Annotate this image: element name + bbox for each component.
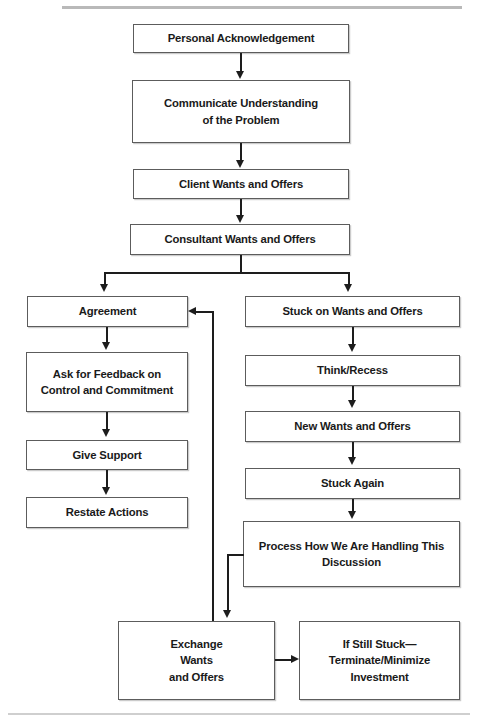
node-process-how-we-are-handling-this-discussion[interactable]: Process How We Are Handling This Discuss… (243, 521, 460, 587)
edge-line-process-exit-left (227, 554, 244, 556)
edge-line-consultant-fork-stem (240, 255, 242, 273)
node-stuck-again[interactable]: Stuck Again (245, 468, 460, 499)
node-label: Agreement (34, 303, 181, 319)
edge-line-ack-to-communicate (240, 53, 242, 73)
node-label: Communicate Understanding of the Problem (139, 95, 343, 128)
node-client-wants-and-offers[interactable]: Client Wants and Offers (133, 169, 349, 199)
edge-line-loop-back-horizontal (196, 311, 213, 313)
edge-line-process-down-to-exchange (227, 554, 229, 611)
node-label: If Still Stuck— Terminate/Minimize Inves… (306, 636, 453, 685)
node-restate-actions[interactable]: Restate Actions (26, 497, 188, 528)
edge-line-loop-back-vertical (212, 311, 214, 621)
edge-arrow-fork-to-agreement (100, 284, 108, 292)
edge-line-support-to-restate (106, 470, 108, 488)
edge-line-stuck-to-think (352, 327, 354, 345)
node-consultant-wants-and-offers[interactable]: Consultant Wants and Offers (130, 224, 350, 255)
node-personal-acknowledgement[interactable]: Personal Acknowledgement (133, 24, 349, 53)
edge-arrow-fork-to-stuck (344, 284, 352, 292)
top-divider-rule (62, 6, 462, 9)
node-label: Client Wants and Offers (140, 176, 342, 192)
node-exchange-wants-and-offers[interactable]: Exchange Wants and Offers (118, 621, 275, 700)
node-label: Process How We Are Handling This Discuss… (250, 538, 453, 571)
edge-line-feedback-to-support (106, 412, 108, 430)
node-new-wants-and-offers[interactable]: New Wants and Offers (245, 411, 460, 442)
node-label: Consultant Wants and Offers (137, 231, 343, 247)
node-label: New Wants and Offers (252, 418, 453, 434)
node-ask-for-feedback[interactable]: Ask for Feedback on Control and Commitme… (26, 352, 188, 412)
node-label: Give Support (33, 447, 181, 463)
node-communicate-understanding[interactable]: Communicate Understanding of the Problem (132, 80, 350, 143)
edge-line-think-to-new-wants (352, 386, 354, 401)
node-stuck-on-wants-and-offers[interactable]: Stuck on Wants and Offers (245, 296, 460, 327)
node-if-still-stuck[interactable]: If Still Stuck— Terminate/Minimize Inves… (299, 621, 460, 700)
node-agreement[interactable]: Agreement (27, 296, 188, 327)
edge-arrow-new-wants-to-stuck-again (348, 457, 356, 465)
node-label: Think/Recess (252, 362, 453, 378)
node-label: Restate Actions (33, 504, 181, 520)
node-label: Stuck Again (252, 475, 453, 491)
edge-arrow-stuck-again-to-process (348, 511, 356, 519)
bottom-divider-rule (8, 713, 470, 715)
edge-arrow-process-to-exchange (223, 610, 231, 618)
edge-arrow-ack-to-communicate (236, 71, 244, 79)
edge-arrow-communicate-to-client (236, 160, 244, 168)
edge-arrow-client-to-consultant (236, 215, 244, 223)
node-think-recess[interactable]: Think/Recess (245, 355, 460, 386)
edge-arrow-agreement-to-feedback (102, 342, 110, 350)
node-label: Personal Acknowledgement (140, 30, 342, 46)
edge-line-new-wants-to-stuck-again (352, 442, 354, 458)
edge-line-communicate-to-client (240, 143, 242, 161)
node-label: Ask for Feedback on Control and Commitme… (33, 366, 181, 399)
edge-line-client-to-consultant (240, 199, 242, 216)
edge-arrow-loop-back-to-agreement (188, 307, 196, 315)
flowchart-page: Personal Acknowledgement Communicate Und… (0, 0, 479, 722)
edge-arrow-stuck-to-think (348, 344, 356, 352)
edge-line-agreement-to-feedback (106, 327, 108, 343)
edge-arrow-support-to-restate (102, 487, 110, 495)
edge-arrow-think-to-new-wants (348, 400, 356, 408)
edge-arrow-exchange-to-still-stuck (291, 655, 299, 663)
edge-line-consultant-fork-bar (104, 272, 349, 274)
node-label: Stuck on Wants and Offers (252, 303, 453, 319)
edge-arrow-feedback-to-support (102, 429, 110, 437)
node-label: Exchange Wants and Offers (125, 636, 268, 685)
node-give-support[interactable]: Give Support (26, 440, 188, 470)
